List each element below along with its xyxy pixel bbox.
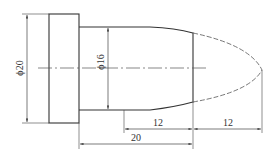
flange-outline (49, 14, 79, 123)
tip-outline-dashed (193, 33, 262, 102)
dim-12-tip-label: 12 (223, 117, 233, 128)
phi20-label: ϕ20 (14, 60, 25, 75)
drawing-svg: ϕ20 ϕ16 12 12 20 (0, 0, 277, 164)
dim-20-label: 20 (131, 132, 141, 143)
dim-12-shaft-label: 12 (153, 117, 163, 128)
phi16-label: ϕ16 (95, 54, 106, 69)
technical-drawing: ϕ20 ϕ16 12 12 20 (0, 0, 277, 164)
